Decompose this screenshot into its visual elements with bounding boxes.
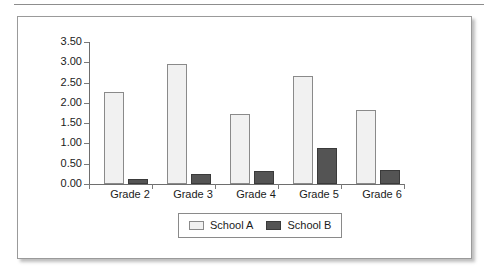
y-axis-tick-mark <box>84 143 89 144</box>
x-axis-category-label: Grade 5 <box>284 189 354 200</box>
y-axis-tick-label: 3.50 <box>40 36 82 47</box>
bar-group <box>224 42 287 184</box>
bar-group <box>287 42 350 184</box>
y-axis-tick-label: 2.50 <box>40 77 82 88</box>
y-axis-tick-mark <box>84 123 89 124</box>
y-axis-tick-label: 1.50 <box>40 117 82 128</box>
y-axis-tick-labels: 3.503.002.502.001.501.000.500.00 <box>28 17 82 260</box>
x-axis-category-label: Grade 6 <box>347 189 417 200</box>
bar-school-a[interactable] <box>293 76 313 184</box>
bar-school-b[interactable] <box>191 174 211 184</box>
bar-school-a[interactable] <box>230 114 250 184</box>
x-axis-category-label: Grade 3 <box>158 189 228 200</box>
bar-school-a[interactable] <box>104 92 124 185</box>
y-axis-tick-label: 3.00 <box>40 56 82 67</box>
x-axis-line <box>89 184 404 185</box>
y-axis-tick-mark <box>84 103 89 104</box>
y-axis-tick-label: 1.00 <box>40 137 82 148</box>
y-axis-tick-mark <box>84 62 89 63</box>
x-axis-tick-mark <box>89 184 90 189</box>
y-axis-tick-label: 0.50 <box>40 158 82 169</box>
y-axis-tick-label: 2.00 <box>40 97 82 108</box>
legend-label: School A <box>210 220 253 231</box>
legend-entry[interactable]: School A <box>189 220 253 231</box>
top-horizontal-rule <box>14 4 484 5</box>
chart-legend: School ASchool B <box>178 213 342 238</box>
bar-chart-plot-area: 3.503.002.502.001.501.000.500.00 Grade 2… <box>18 17 473 260</box>
y-axis-tick-mark <box>84 164 89 165</box>
bar-school-b[interactable] <box>254 171 274 184</box>
chart-figure-frame: 3.503.002.502.001.501.000.500.00 Grade 2… <box>17 16 472 259</box>
legend-label: School B <box>287 220 331 231</box>
y-axis-tick-label: 0.00 <box>40 178 82 189</box>
bar-school-b[interactable] <box>380 170 400 184</box>
legend-entry[interactable]: School B <box>266 220 331 231</box>
bar-school-a[interactable] <box>167 64 187 184</box>
y-axis-tick-mark <box>84 83 89 84</box>
bar-school-a[interactable] <box>356 110 376 184</box>
light-gray-swatch <box>189 221 204 230</box>
bar-school-b[interactable] <box>317 148 337 184</box>
bar-school-b[interactable] <box>128 179 148 184</box>
bar-group <box>161 42 224 184</box>
y-axis-tick-mark <box>84 42 89 43</box>
x-axis-category-label: Grade 2 <box>95 189 165 200</box>
bar-group <box>98 42 161 184</box>
x-axis-category-label: Grade 4 <box>221 189 291 200</box>
dark-gray-swatch <box>266 221 281 230</box>
y-axis-line <box>89 42 90 184</box>
bar-group <box>350 42 413 184</box>
